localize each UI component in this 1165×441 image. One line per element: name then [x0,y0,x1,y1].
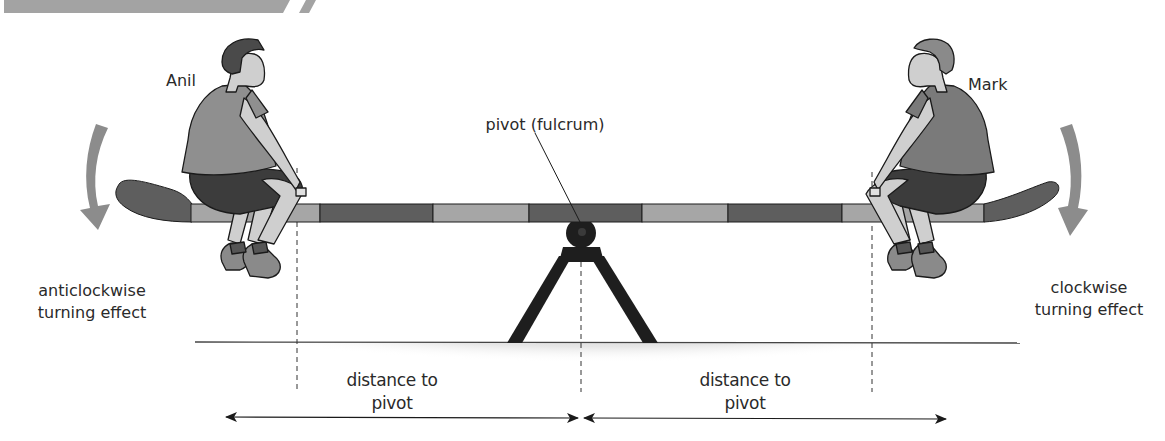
anticlockwise-arrow-icon [80,124,110,230]
diagram-canvas [0,0,1165,441]
mark-name-label: Mark [968,74,1007,95]
clockwise-arrow-icon [1058,124,1088,236]
right-distance-label-line2: pivot [683,393,807,414]
ground [0,250,1165,427]
header-banner [4,0,316,13]
anticlockwise-label-line2: turning effect [18,302,166,323]
anil-figure [182,39,306,278]
pivot-label: pivot (fulcrum) [455,114,635,135]
seesaw-diagram: Anil Mark pivot (fulcrum) anticlockwise … [0,0,1165,441]
anil-name-label: Anil [166,70,196,91]
right-distance-label-line1: distance to [683,370,807,391]
clockwise-label-line1: clockwise [1024,277,1154,298]
clockwise-label-line2: turning effect [1024,299,1154,320]
left-distance-label-line1: distance to [330,370,454,391]
anticlockwise-label-line1: anticlockwise [18,280,166,301]
left-distance-label-line2: pivot [330,393,454,414]
